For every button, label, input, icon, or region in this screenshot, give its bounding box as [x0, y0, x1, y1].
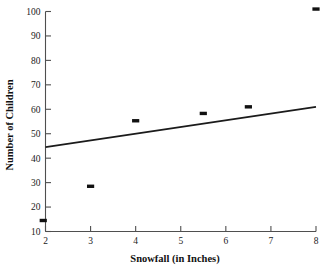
y-axis-ticks: 102030405060708090100 [26, 7, 51, 237]
x-tick-label: 7 [269, 236, 274, 246]
y-tick-label: 80 [31, 56, 41, 66]
y-tick-label: 100 [26, 7, 41, 17]
scatter-plot: 102030405060708090100 2345678 Snowfall (… [0, 0, 335, 268]
x-axis-title: Snowfall (in Inches) [130, 253, 220, 265]
data-points [40, 7, 320, 222]
x-tick-label: 8 [314, 236, 319, 246]
x-tick-label: 4 [133, 236, 138, 246]
trend-line [46, 107, 317, 147]
data-point [40, 219, 47, 222]
data-point [132, 119, 139, 122]
y-tick-label: 10 [31, 227, 41, 237]
y-tick-label: 60 [31, 105, 41, 115]
y-tick-label: 50 [31, 129, 41, 139]
x-tick-label: 2 [43, 236, 48, 246]
y-tick-label: 90 [31, 31, 41, 41]
x-tick-label: 3 [88, 236, 93, 246]
data-point [200, 112, 207, 115]
data-point [312, 7, 319, 10]
y-tick-label: 40 [31, 154, 41, 164]
data-point [245, 105, 252, 108]
y-tick-label: 30 [31, 178, 41, 188]
y-tick-label: 20 [31, 202, 41, 212]
x-tick-label: 6 [223, 236, 228, 246]
x-axis-ticks: 2345678 [43, 226, 319, 246]
data-point [87, 185, 94, 188]
chart-page: 102030405060708090100 2345678 Snowfall (… [0, 0, 335, 268]
y-axis-title: Number of Children [4, 79, 15, 170]
y-tick-label: 70 [31, 80, 41, 90]
x-tick-label: 5 [178, 236, 183, 246]
